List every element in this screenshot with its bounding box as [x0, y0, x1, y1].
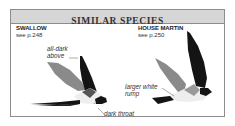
annotation-swallow-throat: dark throat: [104, 110, 134, 117]
bird-illustrations: [0, 0, 235, 126]
house-martin-illustration: [152, 31, 212, 104]
annotation-swallow-above: all-dark above: [47, 45, 68, 59]
swallow-illustration: [30, 56, 107, 114]
annotation-martin-rump: larger white rump: [125, 83, 158, 97]
